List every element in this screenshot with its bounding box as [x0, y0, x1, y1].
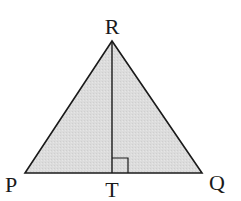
label-r: R [105, 14, 120, 39]
label-t: T [105, 177, 119, 201]
label-p: P [5, 172, 17, 197]
triangle-pqr [25, 41, 202, 173]
label-q: Q [209, 170, 225, 195]
triangle-diagram: R P Q T [0, 0, 241, 201]
